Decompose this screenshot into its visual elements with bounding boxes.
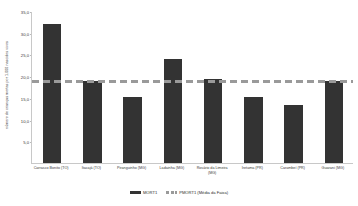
x-axis-label: Carambeí (PR)	[273, 166, 313, 171]
y-tick-label: 15,0	[21, 96, 29, 101]
y-tick-label: 30,0	[21, 31, 29, 36]
x-axis-label: Rosário da Limeira (MG)	[192, 166, 232, 175]
x-axis-label: Guarani (MG)	[313, 166, 353, 171]
bar	[83, 81, 102, 164]
bar	[204, 79, 223, 163]
legend-color-swatch-icon	[130, 191, 141, 194]
legend-item[interactable]: PMORT1 (Média da Faixa)	[166, 190, 228, 195]
x-axis-label: Iretama (PR)	[232, 166, 272, 171]
bar	[164, 59, 183, 163]
y-tick-label: 25,0	[21, 53, 29, 58]
average-line	[32, 80, 353, 83]
y-tick-label: 10,0	[21, 118, 29, 123]
x-axis-label: Piranguinho (MG)	[112, 166, 152, 171]
x-axis-category-labels: Carrasco Bonito (TO)Itacajá (TO)Pirangui…	[31, 166, 353, 186]
plot-area	[31, 12, 353, 164]
bar-chart: número de crianças mortas por 1.000 nasc…	[0, 0, 358, 206]
y-tick-label: 20,0	[21, 75, 29, 80]
chart-legend: MORT1PMORT1 (Média da Faixa)	[0, 190, 358, 195]
bar	[43, 24, 62, 163]
bar	[284, 105, 303, 163]
bar	[244, 97, 263, 163]
y-tick-label: 5,0	[23, 140, 29, 145]
bar	[325, 81, 344, 163]
bars-layer	[32, 12, 353, 163]
x-axis-label: Ladainha (MG)	[152, 166, 192, 171]
x-axis-label: Carrasco Bonito (TO)	[31, 166, 71, 171]
y-axis-tick-labels: 5,010,015,020,025,030,035,0	[10, 10, 30, 165]
legend-dashed-line-icon	[166, 191, 177, 194]
legend-label: PMORT1 (Média da Faixa)	[179, 190, 228, 195]
legend-label: MORT1	[143, 190, 157, 195]
legend-item[interactable]: MORT1	[130, 190, 157, 195]
bar	[123, 97, 142, 163]
y-tick-label: 35,0	[21, 10, 29, 15]
x-axis-label: Itacajá (TO)	[71, 166, 111, 171]
